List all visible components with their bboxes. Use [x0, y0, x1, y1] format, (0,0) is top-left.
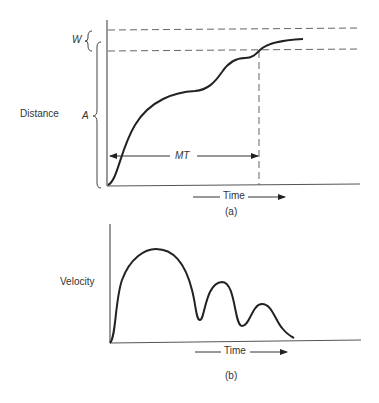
a-label: A: [82, 110, 89, 121]
caption-a: (a): [225, 206, 237, 217]
w-brace: [85, 31, 92, 51]
figure-canvas: [0, 0, 379, 403]
w-label: W: [72, 34, 81, 45]
panel-b-axes: [110, 224, 361, 343]
distance-axis-label: Distance: [20, 108, 59, 119]
a-brace: [93, 42, 101, 188]
time-label-b: Time: [224, 345, 246, 356]
panel-a-axes: [107, 20, 360, 186]
velocity-axis-label: Velocity: [60, 276, 94, 287]
target-width-lines: [108, 28, 360, 185]
velocity-curve: [110, 249, 294, 343]
distance-curve: [108, 39, 303, 185]
caption-b: (b): [225, 370, 237, 381]
mt-label: MT: [175, 150, 189, 161]
time-label-a: Time: [223, 190, 245, 201]
